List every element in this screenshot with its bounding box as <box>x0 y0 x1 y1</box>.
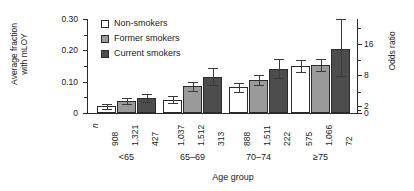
legend-swatch-icon <box>101 50 109 58</box>
y-axis-label-left: Average fraction with mLOY <box>9 0 29 109</box>
legend-item-0: Non-smokers <box>101 16 181 31</box>
y-axis-left-line <box>87 19 88 114</box>
error-bar-cap <box>188 82 198 83</box>
error-bar-cap <box>142 102 152 103</box>
error-bar-cap <box>316 71 326 72</box>
error-bar-cap <box>208 85 218 86</box>
error-bar-cap <box>296 60 306 61</box>
figure: Average fraction with mLOY Odds ratio 00… <box>0 0 414 191</box>
sample-size-label: 1,321 <box>131 125 140 146</box>
y-tick-label: 0.30 <box>48 15 78 24</box>
error-bar-cap <box>188 91 198 92</box>
x-category-label: ≥75 <box>277 152 364 162</box>
error-bar <box>341 19 342 76</box>
error-bar <box>321 59 322 71</box>
sample-size-label: 1,066 <box>325 125 334 146</box>
error-bar-cap <box>168 96 178 97</box>
error-bar <box>301 60 302 71</box>
error-bar <box>259 75 260 85</box>
error-bar-cap <box>316 59 326 60</box>
error-bar-cap <box>234 83 244 84</box>
y-tick-right-major <box>358 75 362 76</box>
legend-swatch-icon <box>101 35 109 43</box>
y-tick-minor <box>84 66 87 67</box>
y-tick-label: 0 <box>48 109 78 118</box>
y-tick-right-label: 16 <box>364 40 390 49</box>
sample-size-label: 1,511 <box>263 125 272 146</box>
y-tick-right-minor <box>358 28 361 29</box>
error-bar-cap <box>234 92 244 93</box>
sample-size-label: 1,037 <box>177 125 186 146</box>
y-tick-right-minor <box>358 92 361 93</box>
sample-size-label: 1,512 <box>197 125 206 146</box>
y-tick-right-label: 2 <box>364 102 390 111</box>
y-tick-right-minor <box>358 110 361 111</box>
error-bar-cap <box>254 85 264 86</box>
error-bar <box>147 94 148 103</box>
legend: Non-smokersFormer smokersCurrent smokers <box>101 16 181 61</box>
legend-item-1: Former smokers <box>101 31 181 46</box>
sample-size-label: 908 <box>111 132 120 146</box>
error-bar <box>193 82 194 91</box>
sample-size-label: 222 <box>283 132 292 146</box>
legend-label: Current smokers <box>114 49 181 58</box>
y-tick-minor <box>84 97 87 98</box>
error-bar-cap <box>208 68 218 69</box>
x-axis-label: Age group <box>0 172 414 182</box>
error-bar-cap <box>274 78 284 79</box>
y-tick-minor <box>84 35 87 36</box>
error-bar-cap <box>122 98 132 99</box>
y-axis-label-right: Odds ratio <box>387 6 397 96</box>
error-bar-cap <box>274 59 284 60</box>
y-tick-label: 0.20 <box>48 46 78 55</box>
x-axis-label-text: Age group <box>212 172 254 182</box>
legend-item-2: Current smokers <box>101 46 181 61</box>
y-tick-right-major <box>358 44 362 45</box>
y-tick-major <box>83 19 87 20</box>
sample-size-label: 313 <box>217 132 226 146</box>
error-bar-cap <box>296 72 306 73</box>
error-bar-cap <box>122 104 132 105</box>
y-tick-label: 0.10 <box>48 78 78 87</box>
legend-label: Former smokers <box>114 34 180 43</box>
sample-size-label: 575 <box>305 132 314 146</box>
error-bar-cap <box>168 103 178 104</box>
error-bar-cap <box>336 19 346 20</box>
sample-size-label: 72 <box>345 137 354 146</box>
legend-label: Non-smokers <box>114 19 168 28</box>
error-bar <box>279 59 280 78</box>
error-bar <box>239 83 240 92</box>
error-bar-cap <box>142 94 152 95</box>
error-bar-cap <box>102 104 112 105</box>
bar <box>311 65 330 113</box>
y-tick-major <box>83 50 87 51</box>
y-tick-major <box>83 113 87 114</box>
error-bar-cap <box>102 109 112 110</box>
legend-swatch-icon <box>101 20 109 28</box>
error-bar-cap <box>336 76 346 77</box>
n-marker-label: n <box>90 123 100 128</box>
error-bar-cap <box>254 75 264 76</box>
y-tick-right-label: 8 <box>364 71 390 80</box>
y-axis-right-line <box>357 19 358 114</box>
x-axis-line <box>87 113 358 114</box>
bar <box>291 66 310 113</box>
sample-size-label: 888 <box>243 132 252 146</box>
error-bar <box>213 68 214 85</box>
y-tick-right-major <box>358 113 362 114</box>
y-tick-right-major <box>358 106 362 107</box>
sample-size-label: 427 <box>151 132 160 146</box>
y-tick-right-minor <box>358 60 361 61</box>
y-tick-major <box>83 82 87 83</box>
